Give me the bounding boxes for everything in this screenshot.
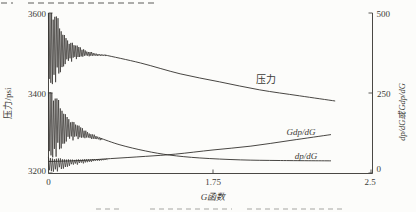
g-function-chart: 3600 3400 3200 500 250 0 0 1.75 2.5 压力/p… <box>0 0 416 212</box>
pressure-curve-label: 压力 <box>256 73 276 85</box>
left-tick-label-3400: 3400 <box>28 89 47 99</box>
dpdg-noise <box>48 92 102 157</box>
left-tick-label-3600: 3600 <box>28 9 47 19</box>
dpdg-curve-label: dp/dG <box>295 151 318 161</box>
x-axis-title: G函数 <box>201 192 226 202</box>
pressure-noise <box>48 13 106 84</box>
x-tick-label-2.5: 2.5 <box>364 177 376 187</box>
curve-pressure <box>105 55 335 101</box>
left-axis-title: 压力/psi <box>2 87 13 119</box>
x-tick-label-1.75: 1.75 <box>205 177 221 187</box>
figure-caption-fragment <box>96 208 120 210</box>
page-text-top-fragment <box>28 2 154 5</box>
right-axis-title: dp/dG或Gdp/dG <box>397 83 407 141</box>
x-tick-label-0: 0 <box>46 177 51 187</box>
figure-caption-fragment <box>247 208 343 210</box>
chart-curves <box>49 55 336 161</box>
axes <box>49 13 373 174</box>
left-tick-label-3200: 3200 <box>28 166 47 176</box>
right-tick-label-0: 0 <box>377 164 382 174</box>
right-tick-label-250: 250 <box>377 89 391 99</box>
page-text-top-fragment <box>1 2 13 5</box>
figure-caption-fragment <box>150 208 232 210</box>
early-time-oscillation-noise <box>48 13 107 172</box>
axis-tick-marks <box>49 13 373 174</box>
gdpdg-curve-label: Gdp/dG <box>287 127 317 137</box>
scanned-figure-page: 3600 3400 3200 500 250 0 0 1.75 2.5 压力/p… <box>0 0 416 212</box>
right-tick-label-500: 500 <box>377 9 391 19</box>
